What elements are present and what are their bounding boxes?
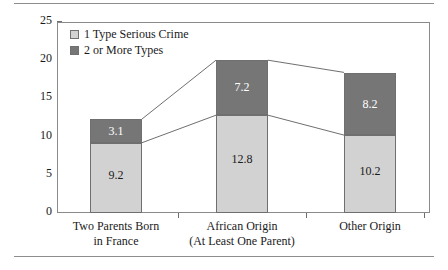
top-rule <box>14 3 434 4</box>
x-axis-label-group-3-line-1: Other Origin <box>300 219 440 234</box>
bar-1-value-dark: 3.1 <box>91 124 141 139</box>
bottom-rule <box>14 256 434 257</box>
bar-2-value-light: 12.8 <box>217 152 267 167</box>
bar-3-segment-light: 10.2 <box>344 135 396 213</box>
x-axis-label-group-2-line-1: African Origin <box>170 219 314 234</box>
legend-label-2: 2 or More Types <box>84 42 163 58</box>
x-tick-1 <box>178 213 179 218</box>
bar-3-value-light: 10.2 <box>345 164 395 179</box>
x-axis-label-group-2-line-2: (At Least One Parent) <box>170 234 314 249</box>
bar-1-value-light: 9.2 <box>91 168 141 183</box>
x-tick-3 <box>424 213 425 218</box>
x-axis-label-group-1: Two Parents Born in France <box>46 219 186 249</box>
x-axis-label-group-2: African Origin (At Least One Parent) <box>170 219 314 249</box>
x-axis-label-group-3: Other Origin <box>300 219 440 234</box>
legend-item-2: 2 or More Types <box>70 42 189 58</box>
legend-swatch-dark-icon <box>70 46 79 55</box>
bar-2-segment-dark: 7.2 <box>216 60 268 115</box>
bar-2-value-dark: 7.2 <box>217 80 267 95</box>
legend-item-1: 1 Type Serious Crime <box>70 26 189 42</box>
x-axis-label-group-1-line-1: Two Parents Born <box>46 219 186 234</box>
legend-label-1: 1 Type Serious Crime <box>84 26 189 42</box>
x-axis-label-group-1-line-2: in France <box>46 234 186 249</box>
y-tick-label-20: 20 <box>22 51 52 66</box>
y-tick-label-5: 5 <box>22 166 52 181</box>
y-tick-label-0: 0 <box>22 204 52 219</box>
bar-3-value-dark: 8.2 <box>345 97 395 112</box>
legend: 1 Type Serious Crime 2 or More Types <box>70 26 189 58</box>
bar-1-segment-dark: 3.1 <box>90 119 142 143</box>
legend-swatch-light-icon <box>70 30 79 39</box>
bar-1-segment-light: 9.2 <box>90 143 142 213</box>
y-tick-label-25: 25 <box>22 13 52 28</box>
x-tick-2 <box>306 213 307 218</box>
bar-2-segment-light: 12.8 <box>216 115 268 213</box>
y-tick-label-15: 15 <box>22 89 52 104</box>
bar-3-segment-dark: 8.2 <box>344 73 396 136</box>
figure-container: Percentage 25 20 15 10 5 0 9.2 <box>0 0 448 270</box>
y-tick-label-10: 10 <box>22 128 52 143</box>
